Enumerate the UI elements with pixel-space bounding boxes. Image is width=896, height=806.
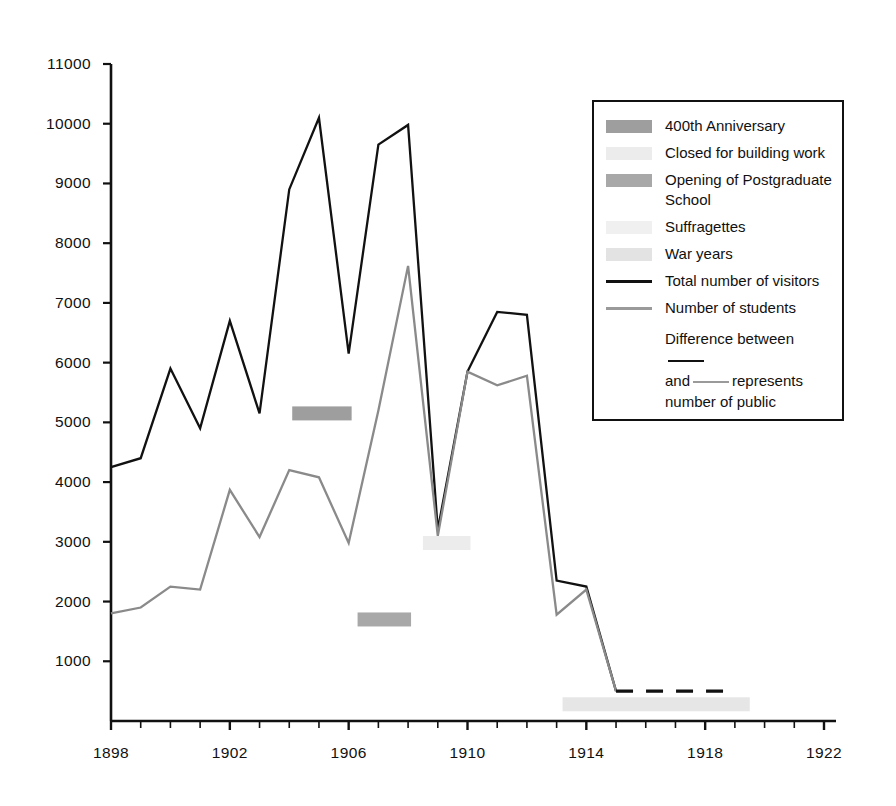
series-line-0 (111, 118, 616, 691)
legend-item: Total number of visitors (606, 271, 832, 291)
legend-color-swatch (606, 248, 652, 261)
x-axis-label-1910: 1910 (449, 744, 485, 762)
legend-item-label: 400th Anniversary (665, 116, 785, 136)
series-line-1 (111, 266, 616, 691)
y-axis-label-1000: 1000 (0, 652, 91, 670)
legend-color-swatch (606, 120, 652, 133)
annotation-band-2 (423, 536, 471, 550)
x-axis-label-1898: 1898 (93, 744, 129, 762)
legend-item: War years (606, 244, 832, 264)
legend-note-text-2: and (665, 372, 690, 389)
y-axis-label-11000: 11000 (0, 55, 91, 73)
y-axis-label-7000: 7000 (0, 294, 91, 312)
y-axis-label-10000: 10000 (0, 115, 91, 133)
legend-color-swatch (606, 147, 652, 160)
y-axis-label-3000: 3000 (0, 533, 91, 551)
x-axis-label-1918: 1918 (687, 744, 723, 762)
legend-item-label: Total number of visitors (665, 271, 819, 291)
legend-line-swatch (606, 301, 652, 315)
legend-item: Suffragettes (606, 217, 832, 237)
y-axis-label-6000: 6000 (0, 354, 91, 372)
y-axis-label-2000: 2000 (0, 593, 91, 611)
x-axis-label-1902: 1902 (212, 744, 248, 762)
legend-note: Difference between andrepresents number … (665, 328, 832, 412)
legend-line-swatch (606, 274, 652, 288)
legend-item-label: Opening of Postgraduate School (665, 170, 832, 210)
x-axis-label-1906: 1906 (331, 744, 367, 762)
legend-item: Number of students (606, 298, 832, 318)
chart-container: 1000200030004000500060007000800090001000… (0, 0, 896, 806)
legend-item-label: Suffragettes (665, 217, 746, 237)
legend-color-swatch (606, 221, 652, 234)
annotation-band-3 (563, 697, 750, 711)
annotation-band-0 (292, 406, 351, 420)
chart-legend: 400th AnniversaryClosed for building wor… (592, 100, 844, 421)
legend-item-label: Number of students (665, 298, 796, 318)
legend-item-list: 400th AnniversaryClosed for building wor… (606, 116, 832, 318)
legend-item-label: Closed for building work (665, 143, 825, 163)
legend-note-rule-grey (693, 381, 729, 384)
legend-item: Opening of Postgraduate School (606, 170, 832, 210)
legend-note-rule-black (668, 360, 704, 363)
legend-item: 400th Anniversary (606, 116, 832, 136)
x-axis-label-1914: 1914 (568, 744, 604, 762)
legend-note-text-4: number of public (665, 393, 776, 410)
y-axis-label-8000: 8000 (0, 234, 91, 252)
legend-item-label: War years (665, 244, 733, 264)
x-axis-label-1922: 1922 (806, 744, 842, 762)
legend-color-swatch (606, 174, 652, 187)
legend-note-text-3: represents (732, 372, 803, 389)
annotation-band-1 (358, 612, 411, 626)
legend-note-text-1: Difference between (665, 330, 794, 347)
y-axis-label-4000: 4000 (0, 473, 91, 491)
y-axis-label-9000: 9000 (0, 174, 91, 192)
y-axis-label-5000: 5000 (0, 413, 91, 431)
legend-item: Closed for building work (606, 143, 832, 163)
